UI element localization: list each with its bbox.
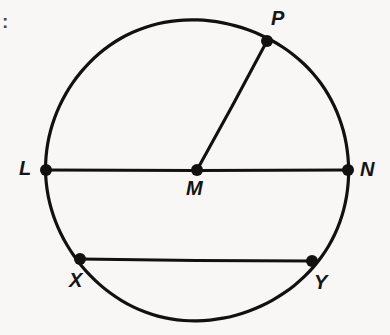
dot-point-l: [40, 164, 52, 176]
dot-point-m: [191, 164, 203, 176]
dot-point-y: [306, 255, 318, 267]
label-point-m: M: [186, 178, 203, 198]
dot-point-x: [74, 253, 86, 265]
label-point-l: L: [19, 158, 31, 178]
dot-point-p: [261, 35, 273, 47]
radius-mp: [197, 41, 267, 170]
diagram-canvas: : P L M N X Y: [0, 0, 390, 335]
dot-point-n: [342, 164, 354, 176]
label-point-n: N: [360, 159, 374, 179]
label-point-x: X: [69, 270, 82, 290]
circle-geometry-svg: [0, 0, 390, 335]
label-point-y: Y: [314, 272, 327, 292]
chord-xy: [80, 259, 312, 261]
label-point-p: P: [271, 8, 284, 28]
